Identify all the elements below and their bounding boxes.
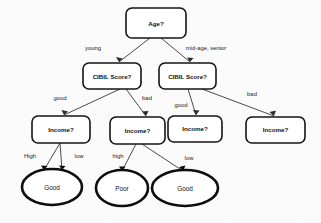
edge-label-good-right: good xyxy=(174,102,187,108)
node-cibil-score-right[interactable]: CIBIL Score? xyxy=(159,63,216,89)
arrowhead-midage xyxy=(187,58,194,63)
leaf-good-2-label: Good xyxy=(177,185,193,192)
edge-label-bad-right: bad xyxy=(247,91,257,97)
edge-label-good-left: good xyxy=(53,95,66,101)
node-age[interactable]: Age? xyxy=(126,8,186,38)
leaf-good-1-label: Good xyxy=(44,184,60,191)
node-income-3-label: Income? xyxy=(182,125,208,132)
leaf-good-1[interactable]: Good xyxy=(22,169,82,205)
edge-income2-low xyxy=(142,144,183,171)
arrowhead-good-left xyxy=(62,110,69,115)
edge-group xyxy=(41,38,276,171)
node-cibil-score-left[interactable]: CIBIL Score? xyxy=(83,63,141,89)
diagram-canvas: young mid-age, senior good bad good bad … xyxy=(0,0,321,223)
edge-label-high-2: high xyxy=(112,153,123,159)
edge-label-mid-age-senior: mid-age, senior xyxy=(186,45,227,51)
arrowhead-young xyxy=(116,57,123,62)
node-income-4[interactable]: Income? xyxy=(246,117,305,143)
node-income-3[interactable]: Income? xyxy=(168,116,222,142)
node-income-4-label: Income? xyxy=(263,126,289,133)
node-income-2[interactable]: Income? xyxy=(110,117,165,144)
node-income-2-label: Income? xyxy=(125,127,151,134)
edge-label-bad-left: bad xyxy=(142,95,152,101)
decision-tree: young mid-age, senior good bad good bad … xyxy=(0,0,321,223)
leaf-poor[interactable]: Poor xyxy=(96,170,148,206)
leaf-good-2[interactable]: Good xyxy=(152,170,218,206)
leaf-poor-label: Poor xyxy=(115,185,129,192)
edge-root-young xyxy=(119,38,150,62)
edge-cibil-left-good xyxy=(64,89,120,115)
edge-label-low-2: low xyxy=(185,155,195,161)
node-income-1-label: Income? xyxy=(48,126,74,133)
edge-cibil-right-bad xyxy=(202,89,274,116)
node-age-label: Age? xyxy=(148,20,164,27)
arrowhead-good-right xyxy=(193,110,200,115)
node-cibil-right-label: CIBIL Score? xyxy=(168,73,207,80)
node-cibil-left-label: CIBIL Score? xyxy=(93,73,132,80)
node-income-1[interactable]: Income? xyxy=(32,116,90,143)
edge-label-low-1: low xyxy=(75,153,85,159)
edge-label-young: young xyxy=(85,45,101,51)
edge-label-high-1: High xyxy=(24,153,36,159)
